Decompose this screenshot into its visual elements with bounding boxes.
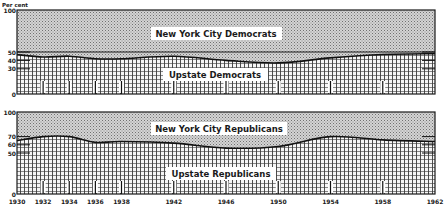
x-tick-label: 1962 — [427, 198, 444, 205]
y-tick-label: 70 — [8, 133, 16, 140]
x-tick-label: 1958 — [374, 198, 391, 205]
y-tick-label: 0 — [12, 191, 16, 198]
x-tick-label: 1936 — [87, 198, 104, 205]
y-tick-label: 40 — [8, 57, 16, 64]
y-tick-label: 60 — [8, 141, 16, 148]
x-tick-label: 1938 — [113, 198, 130, 205]
x-axis-labels: 1930193219341936193819421946195019541958… — [9, 198, 444, 205]
x-tick-label: 1954 — [322, 198, 339, 205]
upstate-republicans-label: Upstate Republicans — [172, 169, 271, 179]
y-tick-label: 50 — [8, 49, 16, 56]
upstate-democrats-label: Upstate Democrats — [169, 70, 261, 80]
chart-canvas: Per cent 0304050100 New York City Democr… — [0, 0, 444, 208]
nyc-democrats-label: New York City Democrats — [155, 29, 276, 39]
y-tick-label: 100 — [3, 7, 16, 14]
y-tick-label: 0 — [12, 91, 16, 98]
y-tick-label: 100 — [3, 109, 16, 116]
x-tick-label: 1932 — [35, 198, 52, 205]
x-tick-label: 1930 — [9, 198, 26, 205]
democrats-panel: 0304050100 New York City Democrats Upsta… — [3, 7, 435, 98]
y-tick-label: 30 — [8, 65, 16, 72]
x-tick-label: 1950 — [270, 198, 287, 205]
x-tick-label: 1946 — [218, 198, 235, 205]
y-tick-label: 50 — [8, 150, 16, 157]
x-tick-label: 1934 — [61, 198, 78, 205]
republicans-panel: 0506070100 New York City Republicans Ups… — [3, 109, 435, 198]
x-tick-label: 1942 — [165, 198, 182, 205]
nyc-republicans-label: New York City Republicans — [155, 124, 283, 134]
